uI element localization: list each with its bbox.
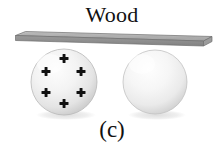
neutral-sphere [123, 50, 187, 114]
panel-label: (c) [0, 118, 224, 141]
physics-figure-panel-c: Wood (c) [0, 0, 224, 151]
neutral-sphere-specular-highlight [129, 54, 155, 74]
wood-label: Wood [0, 4, 224, 26]
wood-plank [16, 32, 213, 47]
